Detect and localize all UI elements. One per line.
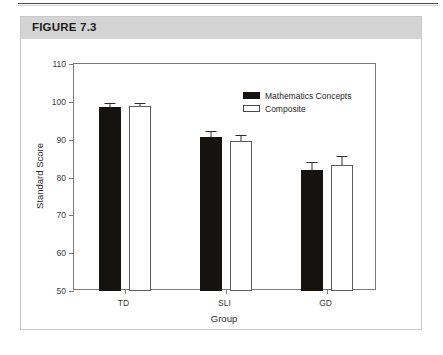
bar-gd-mathematics-concepts [301, 170, 323, 291]
error-bar [230, 135, 252, 141]
error-bar [99, 103, 121, 107]
error-bar [200, 131, 222, 137]
y-axis-tick [69, 291, 74, 292]
y-axis-tick-label: 90 [57, 135, 66, 145]
y-axis-tick-label: 110 [52, 59, 66, 69]
error-bar [331, 156, 353, 165]
bar-gd-composite [331, 165, 353, 291]
legend-item: Composite [243, 103, 351, 114]
y-axis-tick-label: 50 [57, 286, 66, 296]
y-axis-tick [69, 215, 74, 216]
x-axis-tick-label: SLI [218, 298, 231, 308]
legend-swatch-mathematics-concepts [243, 92, 260, 99]
error-bar-cap [205, 131, 216, 132]
error-bar-cap [134, 103, 145, 104]
legend-label: Composite [265, 104, 306, 114]
figure-label: FIGURE 7.3 [32, 21, 97, 33]
error-bar-cap [104, 103, 115, 104]
page-top-rule [18, 3, 438, 4]
x-axis-tick [327, 289, 328, 294]
page-top-rule-shadow [18, 5, 438, 6]
y-axis-tick [69, 102, 74, 103]
figure-container: FIGURE 7.3 Standard Score Group 50607080… [20, 16, 422, 330]
y-axis-tick-label: 70 [57, 210, 66, 220]
y-axis-tick [69, 178, 74, 179]
y-axis-title: Standard Score [34, 143, 45, 209]
x-axis-tick-label: GD [319, 298, 332, 308]
y-axis-tick [69, 253, 74, 254]
error-bar-cap [235, 135, 246, 136]
x-axis-title: Group [211, 313, 237, 324]
bar-sli-mathematics-concepts [200, 137, 222, 291]
bar-sli-composite [230, 141, 252, 291]
bar-td-composite [129, 106, 151, 291]
error-bar [301, 162, 323, 170]
x-axis-tick [226, 289, 227, 294]
error-bar-stem [341, 156, 342, 165]
chart-legend: Mathematics Concepts Composite [243, 90, 351, 116]
y-axis-tick [69, 140, 74, 141]
error-bar-cap [336, 156, 347, 157]
figure-root: FIGURE 7.3 Standard Score Group 50607080… [0, 0, 443, 355]
x-axis-tick [125, 289, 126, 294]
y-axis-tick [69, 64, 74, 65]
x-axis-tick-label: TD [118, 298, 129, 308]
error-bar-stem [311, 162, 312, 170]
legend-item: Mathematics Concepts [243, 90, 351, 101]
y-axis-tick-label: 80 [57, 173, 66, 183]
error-bar-cap [306, 162, 317, 163]
bar-td-mathematics-concepts [99, 107, 121, 291]
y-axis-tick-label: 60 [57, 248, 66, 258]
legend-label: Mathematics Concepts [265, 91, 351, 101]
legend-swatch-composite [243, 105, 260, 112]
chart-canvas: Standard Score Group 5060708090100110 Ma… [21, 39, 421, 329]
y-axis-tick-label: 100 [52, 97, 66, 107]
error-bar [129, 103, 151, 107]
